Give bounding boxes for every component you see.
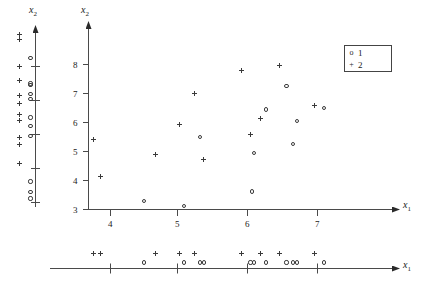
marginal-y-circle <box>28 115 32 119</box>
scatter-point-class-2 <box>201 157 206 162</box>
plus-icon: + <box>348 60 355 69</box>
ytick-label-6: 6 <box>73 118 78 128</box>
marginal-x-plus <box>98 251 103 256</box>
marginal-x-plus <box>312 251 317 256</box>
marginal-x-plus <box>239 251 244 256</box>
marginal-x-plus <box>258 251 263 256</box>
marginal-x-plus <box>153 251 158 256</box>
scatter-point-class-2 <box>177 122 182 127</box>
marginal-y-plus <box>17 135 22 140</box>
ytick-label-5: 5 <box>73 147 78 157</box>
marginal-x-plus <box>192 251 197 256</box>
legend-label-1: 1 <box>358 48 363 58</box>
marginal-x-circle <box>264 260 268 264</box>
marginal-y-plus <box>17 101 22 106</box>
legend: o 1 + 2 <box>344 45 392 72</box>
ytick-label-7: 7 <box>73 89 78 99</box>
marginal-x-circle <box>252 260 256 264</box>
scatter-point-class-2 <box>312 103 317 108</box>
marginal-y-plus <box>17 142 22 147</box>
marginal-y-circle <box>28 92 32 96</box>
scatter-point-class-2 <box>91 137 96 142</box>
marginal-x-circle <box>202 260 206 264</box>
circle-icon: o <box>348 48 355 57</box>
scatter-point-class-2 <box>239 68 244 73</box>
marginal-y-plus <box>17 64 22 69</box>
main-y-axis <box>83 29 89 210</box>
marginal-x-plus <box>277 251 282 256</box>
xtick-label-4: 4 <box>108 219 113 229</box>
xtick-label-5: 5 <box>175 219 180 229</box>
main-y-axis-label: x2 <box>81 4 89 18</box>
marginal-x-plus <box>177 251 182 256</box>
marginal-x-circle <box>295 260 299 264</box>
main-x-axis-label: x1 <box>403 199 411 213</box>
scatter-point-class-1 <box>295 119 299 123</box>
marginal-x-circle <box>284 260 288 264</box>
marginal-x-circle <box>142 260 146 264</box>
scatter-point-class-1 <box>250 189 254 193</box>
scatter-point-class-2 <box>153 152 158 157</box>
scatter-point-class-1 <box>182 204 186 208</box>
marginal-x-circle <box>182 260 186 264</box>
marginal-y-axis-label: x2 <box>29 4 37 18</box>
marginal-y-plus <box>17 161 22 166</box>
marginal-y-plus <box>17 93 22 98</box>
marginal-y-circle <box>28 124 32 128</box>
ytick-label-3: 3 <box>73 205 78 215</box>
marginal-y-circle <box>28 97 32 101</box>
scatter-point-class-1 <box>264 107 268 111</box>
xtick-label-7: 7 <box>315 219 320 229</box>
legend-entry-1: o 1 <box>348 48 388 57</box>
figure-canvas: x2 x2 x1 x1 3 4 5 6 7 8 4 5 6 7 o 1 + 2 <box>0 0 426 288</box>
marginal-y-circle <box>28 196 32 200</box>
scatter-point-class-2 <box>248 132 253 137</box>
legend-label-2: 2 <box>358 60 363 70</box>
marginal-y-circle <box>28 190 32 194</box>
ytick-label-4: 4 <box>73 176 78 186</box>
scatter-point-class-2 <box>258 116 263 121</box>
marginal-y-plus <box>17 112 22 117</box>
axes-svg <box>0 0 426 288</box>
legend-entry-2: + 2 <box>348 60 388 69</box>
marginal-y-plus <box>17 118 22 123</box>
main-x-axis <box>89 210 393 217</box>
marginal-y-circle <box>28 134 32 138</box>
scatter-point-class-1 <box>284 84 288 88</box>
marginal-x-axis <box>50 264 392 274</box>
marginal-x-axis-label: x1 <box>403 259 411 273</box>
marginal-y-plus <box>17 32 22 37</box>
scatter-point-class-2 <box>192 91 197 96</box>
marginal-y-circle <box>28 56 32 60</box>
marginal-y-plus <box>17 37 22 42</box>
marginal-y-circle <box>28 81 32 85</box>
ytick-label-8: 8 <box>73 60 78 70</box>
marginal-y-plus <box>17 78 22 83</box>
xtick-label-6: 6 <box>245 219 250 229</box>
marginal-y-circle <box>28 179 32 183</box>
marginal-x-plus <box>91 251 96 256</box>
scatter-point-class-2 <box>277 63 282 68</box>
scatter-point-class-2 <box>98 174 103 179</box>
scatter-point-class-1 <box>142 199 146 203</box>
